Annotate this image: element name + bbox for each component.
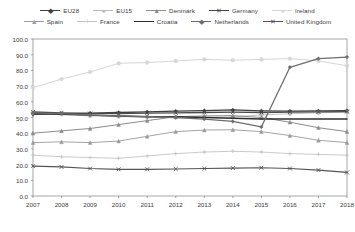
chart-root: ◆EU28●EU15▲Denmark✕Germany●Ireland ▲Spai… xyxy=(0,0,355,232)
data-point-marker xyxy=(145,154,149,158)
series-united-kingdom xyxy=(31,164,349,174)
data-point-marker xyxy=(202,58,206,62)
data-point-marker xyxy=(288,57,292,61)
data-point-marker xyxy=(60,155,64,159)
data-point-marker xyxy=(259,150,263,154)
data-point-marker xyxy=(345,55,349,59)
data-point-marker xyxy=(88,156,92,160)
series-line xyxy=(33,59,347,88)
chart-canvas xyxy=(0,0,355,232)
data-point-marker xyxy=(259,58,263,62)
data-point-marker xyxy=(202,150,206,154)
series-france xyxy=(31,149,349,160)
series-netherlands xyxy=(31,55,349,129)
series-ireland xyxy=(31,57,349,90)
data-point-marker xyxy=(31,153,35,157)
data-point-marker xyxy=(60,77,64,81)
data-point-marker xyxy=(145,61,149,65)
data-point-marker xyxy=(317,152,321,156)
data-point-marker xyxy=(174,152,178,156)
data-point-marker xyxy=(88,70,92,74)
data-point-marker xyxy=(31,86,35,90)
data-point-marker xyxy=(231,149,235,153)
data-point-marker xyxy=(345,153,349,157)
plot-area: 0.010.020.030.040.050.060.070.080.090.01… xyxy=(0,0,355,232)
data-point-marker xyxy=(174,59,178,63)
data-point-marker xyxy=(117,61,121,65)
data-point-marker xyxy=(345,64,349,68)
data-point-marker xyxy=(288,152,292,156)
data-point-marker xyxy=(231,58,235,62)
series-line xyxy=(33,151,347,158)
data-point-marker xyxy=(117,156,121,160)
series-line xyxy=(33,130,347,143)
data-point-marker xyxy=(231,120,235,124)
series-spain xyxy=(31,128,349,145)
series-line xyxy=(33,166,347,172)
